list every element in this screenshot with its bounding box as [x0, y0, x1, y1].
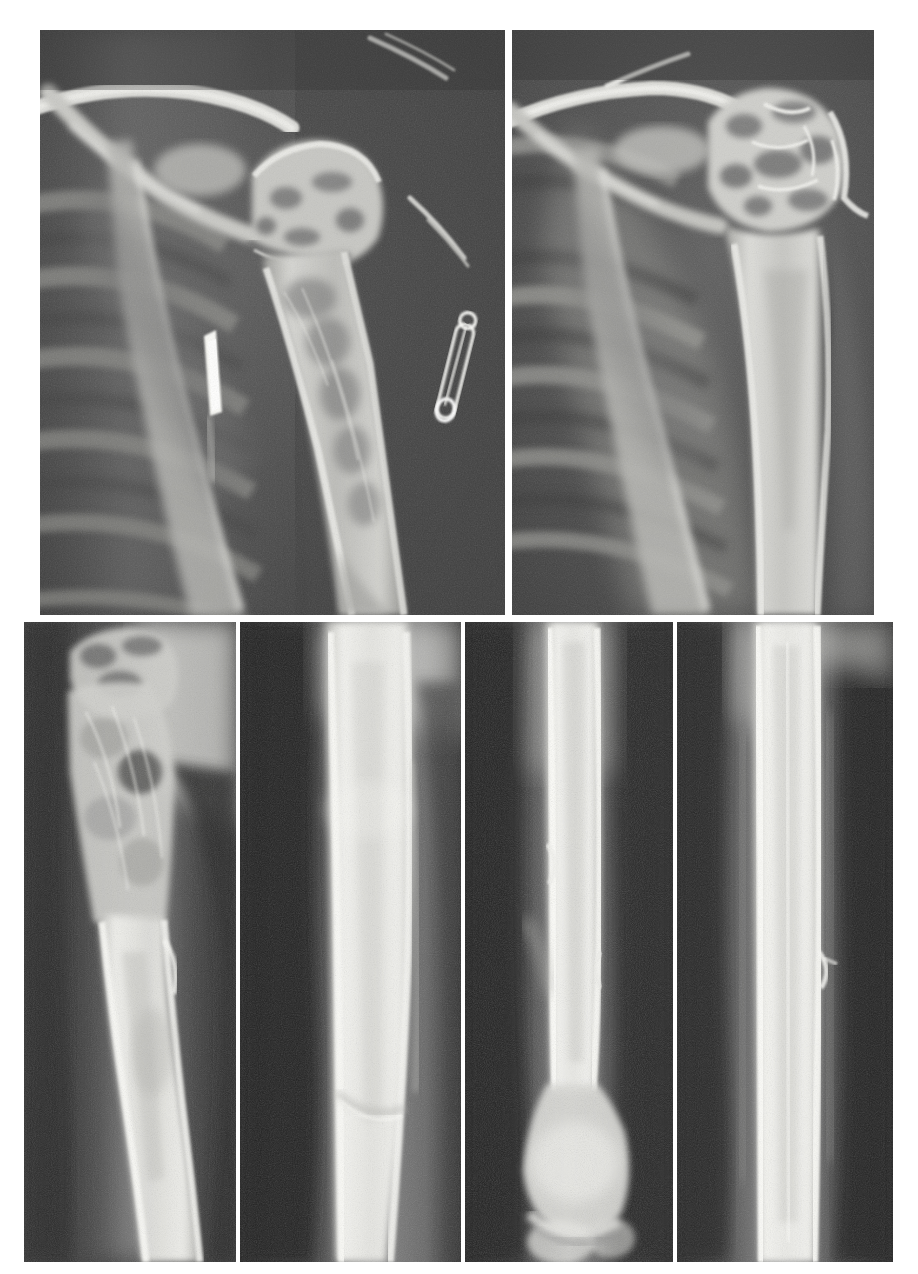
radiograph-figure-plate [0, 0, 918, 1274]
xray-panel-bottom-2[interactable] [240, 622, 461, 1262]
xray-panel-top-left[interactable] [40, 30, 505, 615]
xray-panel-bottom-1[interactable] [24, 622, 236, 1262]
xray-panel-top-right[interactable] [512, 30, 874, 615]
xray-panel-bottom-3[interactable] [465, 622, 673, 1262]
xray-panel-bottom-4[interactable] [677, 622, 893, 1262]
